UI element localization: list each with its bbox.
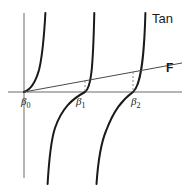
figure-container: Tan F β0 β1 β2 [0, 0, 192, 185]
plot-canvas [0, 0, 192, 185]
f-line-label: F [166, 62, 173, 74]
tick-label-beta2: β2 [131, 96, 140, 110]
tick-label-beta1: β1 [76, 96, 85, 110]
beta0-subscript: 0 [26, 101, 30, 110]
tick-label-beta0: β0 [21, 96, 30, 110]
f-line [24, 63, 182, 92]
tan-branch-2 [48, 13, 95, 184]
beta2-subscript: 2 [136, 101, 140, 110]
tan-curve-label: Tan [152, 12, 173, 25]
beta1-subscript: 1 [81, 101, 85, 110]
tan-branch-1 [24, 13, 45, 92]
